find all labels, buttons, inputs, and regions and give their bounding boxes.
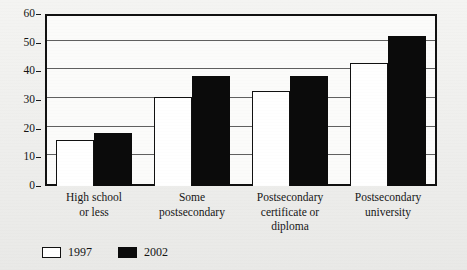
category-label-line: diploma (230, 219, 350, 234)
y-tick-label-50: 50 (24, 37, 36, 49)
black-square-icon (118, 247, 137, 258)
bar-1997-0 (56, 140, 94, 186)
legend-entry-2002: 2002 (118, 245, 168, 260)
category-label-line: university (328, 205, 448, 220)
chart-legend: 19972002 (42, 245, 168, 260)
legend-label: 2002 (144, 245, 168, 260)
y-tick-label-60: 60 (24, 8, 36, 20)
y-tick-mark-20 (36, 129, 41, 130)
y-tick-mark-40 (36, 71, 41, 72)
bar-1997-3 (350, 63, 388, 186)
y-tick-label-10: 10 (24, 152, 36, 164)
bar-2002-2 (290, 76, 328, 186)
y-tick-mark-0 (36, 186, 41, 187)
chart-figure: 0102030405060 High schoolor lessSomepost… (0, 0, 467, 270)
y-tick-label-20: 20 (24, 123, 36, 135)
bar-2002-1 (192, 76, 230, 186)
bar-1997-2 (252, 91, 290, 186)
y-tick-mark-50 (36, 43, 41, 44)
y-tick-mark-60 (36, 14, 41, 15)
legend-label: 1997 (68, 245, 92, 260)
bars-layer (45, 14, 437, 186)
bar-1997-1 (154, 97, 192, 186)
y-tick-mark-30 (36, 100, 41, 101)
white-square-icon (42, 247, 61, 258)
bar-2002-0 (94, 133, 132, 186)
y-tick-label-30: 30 (24, 94, 36, 106)
category-label-3: Postsecondaryuniversity (328, 190, 448, 219)
legend-entry-1997: 1997 (42, 245, 92, 260)
x-axis-category-labels: High schoolor lessSomepostsecondaryPosts… (45, 190, 437, 246)
y-tick-mark-10 (36, 157, 41, 158)
y-tick-label-40: 40 (24, 66, 36, 78)
category-label-line: Postsecondary (328, 190, 448, 205)
y-axis: 0102030405060 (0, 14, 41, 186)
bar-2002-3 (388, 36, 426, 187)
